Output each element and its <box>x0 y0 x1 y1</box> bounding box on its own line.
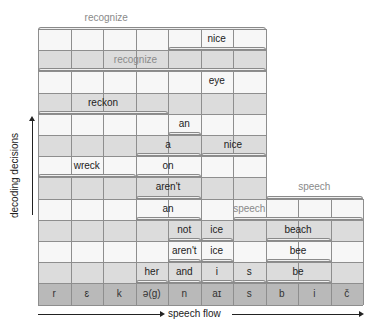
grid-line-vertical <box>103 135 104 156</box>
x-axis-label: speech flow <box>168 308 221 319</box>
grid-line-horizontal <box>38 199 363 200</box>
word-bracket <box>136 174 201 177</box>
grid-line-vertical <box>136 241 137 262</box>
word-bracket <box>136 196 201 199</box>
grid-line-vertical <box>71 114 72 135</box>
phoneme-label: ə(g) <box>136 288 169 300</box>
grid-line-vertical <box>168 93 169 114</box>
grid-line-vertical <box>136 220 137 241</box>
grid-line-vertical <box>38 114 39 135</box>
grid-line-vertical <box>266 156 267 177</box>
grid-line-vertical <box>233 241 234 262</box>
grid-line-vertical <box>363 199 364 220</box>
grid-line-vertical <box>103 199 104 220</box>
word-label: nice <box>168 33 266 45</box>
grid-line-horizontal <box>38 93 266 94</box>
word-bracket <box>201 259 234 262</box>
phoneme-label: s <box>233 288 266 300</box>
grid-line-vertical <box>266 135 267 156</box>
grid-line-vertical <box>103 262 104 283</box>
grid-line-vertical <box>71 177 72 198</box>
grid-line-vertical <box>233 114 234 135</box>
grid-line-horizontal <box>38 241 363 242</box>
grid-line-vertical <box>38 199 39 220</box>
grid-line-vertical <box>103 71 104 92</box>
word-label: nice <box>201 139 266 151</box>
grid-line-vertical <box>266 29 267 50</box>
grid-line-vertical <box>331 241 332 262</box>
grid-line-vertical <box>363 241 364 262</box>
grid-line-vertical <box>266 114 267 135</box>
word-label: not <box>168 224 201 236</box>
word-bracket <box>168 238 201 241</box>
grid-line-vertical <box>136 29 137 50</box>
word-label: ice <box>201 245 234 257</box>
grid-line-vertical <box>331 220 332 241</box>
word-label-side: speech <box>266 181 364 193</box>
grid-line-vertical <box>363 283 364 304</box>
word-bracket <box>136 153 201 156</box>
grid-line-vertical <box>103 220 104 241</box>
word-bracket <box>233 280 266 283</box>
grid-line-vertical <box>233 220 234 241</box>
word-label-top: recognize <box>38 12 175 24</box>
grid-line-vertical <box>103 241 104 262</box>
grid-line-vertical <box>201 156 202 177</box>
grid-line-vertical <box>136 114 137 135</box>
grid-line-horizontal <box>38 114 266 115</box>
phoneme-label: k <box>103 288 136 300</box>
grid-line-vertical <box>71 29 72 50</box>
phoneme-label: aɪ <box>201 288 234 300</box>
word-bracket <box>266 280 331 283</box>
grid-line-vertical <box>38 71 39 92</box>
grid-line-vertical <box>71 135 72 156</box>
word-label: an <box>136 203 201 215</box>
grid-line-vertical <box>71 262 72 283</box>
grid-line-vertical <box>103 29 104 50</box>
phoneme-label: b <box>266 288 299 300</box>
grid-line-vertical <box>71 71 72 92</box>
word-label: wreck <box>38 160 136 172</box>
grid-line-vertical <box>266 71 267 92</box>
word-label: speech <box>233 203 266 215</box>
grid-line-vertical <box>266 93 267 114</box>
grid-line-horizontal <box>38 50 266 51</box>
grid-line-vertical <box>71 241 72 262</box>
x-axis-arrow-left <box>38 314 162 315</box>
grid-line-horizontal <box>38 156 266 157</box>
grid-line-vertical <box>201 177 202 198</box>
word-bracket <box>266 238 331 241</box>
grid-line-vertical <box>266 50 267 71</box>
grid-line-horizontal <box>38 135 266 136</box>
grid-line-vertical <box>38 220 39 241</box>
phoneme-label: i <box>298 288 331 300</box>
word-label: aren't <box>136 181 201 193</box>
phoneme-label: ɛ <box>71 288 104 300</box>
grid-line-vertical <box>71 199 72 220</box>
grid-line-vertical <box>38 241 39 262</box>
word-label: a <box>136 139 201 151</box>
word-bracket <box>38 174 136 177</box>
phoneme-label: č <box>331 288 364 300</box>
word-bracket <box>136 280 169 283</box>
word-bracket <box>168 259 201 262</box>
word-label: recognize <box>71 54 201 66</box>
grid-line-vertical <box>38 262 39 283</box>
word-bracket <box>38 111 168 114</box>
phoneme-label: n <box>168 288 201 300</box>
grid-line-vertical <box>38 29 39 50</box>
word-label: beach <box>266 224 331 236</box>
word-bracket <box>168 280 201 283</box>
x-axis-arrow-right <box>232 314 360 315</box>
word-label: an <box>168 118 201 130</box>
grid-line-vertical <box>201 199 202 220</box>
grid-line-vertical <box>233 93 234 114</box>
word-label: i <box>201 266 234 278</box>
grid-line-vertical <box>331 262 332 283</box>
word-label: eye <box>168 75 266 87</box>
y-axis-arrowhead <box>29 116 35 121</box>
word-bracket <box>266 259 331 262</box>
word-label: s <box>233 266 266 278</box>
word-bracket <box>168 47 266 50</box>
grid-line-vertical <box>363 220 364 241</box>
